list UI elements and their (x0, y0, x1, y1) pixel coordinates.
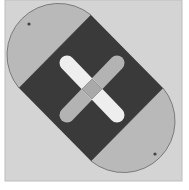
dot-top-left (27, 22, 30, 25)
dot-bottom-right (153, 152, 156, 155)
x-on-rounded-tile-diagram (0, 0, 189, 190)
